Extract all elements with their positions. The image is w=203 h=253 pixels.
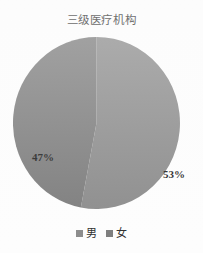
pie-chart-figure: 三级医疗机构 47% 53% 男 女: [0, 0, 203, 253]
legend-swatch-male-icon: [76, 230, 83, 237]
legend-label-female: 女: [116, 228, 127, 239]
chart-legend: 男 女: [0, 228, 203, 239]
chart-title: 三级医疗机构: [0, 11, 203, 27]
pie-graphic: [13, 37, 180, 209]
legend-item-female[interactable]: 女: [106, 228, 127, 239]
pie-label-female: 47%: [32, 151, 54, 163]
legend-label-male: 男: [86, 228, 97, 239]
pie-label-male: 53%: [163, 168, 185, 180]
pie-slice-female[interactable]: [13, 37, 96, 207]
legend-swatch-female-icon: [106, 230, 113, 237]
pie-chart-plot-area: 47% 53%: [13, 37, 180, 209]
legend-item-male[interactable]: 男: [76, 228, 97, 239]
